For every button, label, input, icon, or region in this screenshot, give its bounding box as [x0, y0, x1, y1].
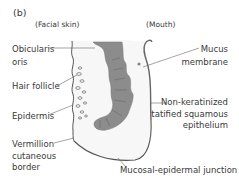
leader-vermillion [54, 138, 74, 143]
leader-mucus-membrane [143, 48, 199, 67]
mucous-gland-dot [137, 62, 140, 65]
leader-epidermis [48, 105, 73, 115]
lip-cross-section-diagram [0, 0, 239, 182]
